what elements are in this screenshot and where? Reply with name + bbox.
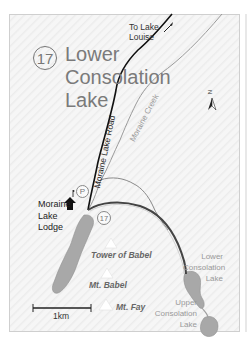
mt-babel-label: Mt. Babel <box>89 280 127 290</box>
parking-icon: P <box>76 185 89 198</box>
to-lake-louise-label: To Lake Louise <box>129 22 165 42</box>
tower-of-babel-label: Tower of Babel <box>91 250 152 260</box>
route-number-badge: 17 <box>33 46 57 70</box>
peak-icon-tower-of-babel <box>105 238 117 248</box>
upper-consolation-lake-label: Upper Consolation Lake <box>152 297 197 330</box>
scale-label: 1km <box>53 311 69 321</box>
map-title: Lower Consolation Lake <box>65 43 215 112</box>
upper-consolation-lake-shape <box>200 316 218 336</box>
peak-icon-mt-fay <box>99 299 113 310</box>
lower-consolation-lake-label: Lower Consolation Lake <box>183 251 223 284</box>
lodge-label: Moraine Lake Lodge <box>38 199 72 234</box>
direction-arrow-icon <box>164 22 173 32</box>
trailhead-icon: 17 <box>97 211 111 225</box>
mt-fay-label: Mt. Fay <box>116 302 145 312</box>
north-label: N <box>207 90 213 94</box>
peak-icon-mt-babel <box>101 268 113 278</box>
